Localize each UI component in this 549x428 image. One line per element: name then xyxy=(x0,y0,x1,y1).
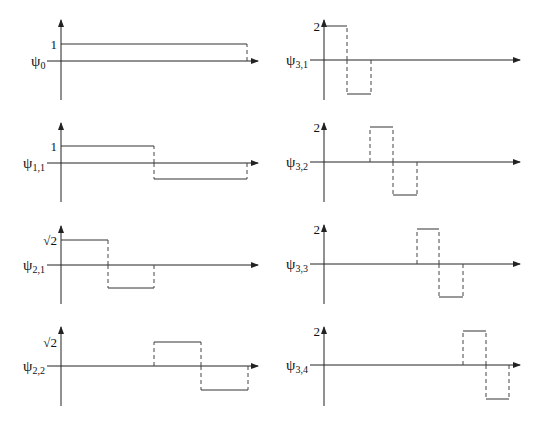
haar-wavelet-figure: ψ01ψ3,12ψ1,11ψ3,22ψ2,1√2ψ3,32ψ2,2√2ψ3,42 xyxy=(0,0,549,428)
amplitude-tick-label: √2 xyxy=(43,335,57,350)
wavelet-panel-psi11: ψ1,11 xyxy=(23,123,258,202)
amplitude-tick-label: 1 xyxy=(51,139,58,154)
function-label: ψ3,4 xyxy=(286,357,308,375)
function-label: ψ2,1 xyxy=(23,257,45,275)
function-label: ψ3,1 xyxy=(286,52,308,70)
wavelet-panel-psi32: ψ3,22 xyxy=(286,120,520,202)
wavelet-plots-canvas: ψ01ψ3,12ψ1,11ψ3,22ψ2,1√2ψ3,32ψ2,2√2ψ3,42 xyxy=(0,0,549,428)
amplitude-tick-label: 2 xyxy=(314,120,321,135)
amplitude-tick-label: 2 xyxy=(314,19,321,34)
wavelet-panel-psi31: ψ3,12 xyxy=(286,19,520,100)
function-label: ψ0 xyxy=(31,53,45,71)
wavelet-panel-psi34: ψ3,42 xyxy=(286,324,520,406)
amplitude-tick-label: 2 xyxy=(314,324,321,339)
function-label: ψ3,2 xyxy=(286,154,308,172)
function-label: ψ3,3 xyxy=(286,256,308,274)
amplitude-tick-label: 1 xyxy=(51,37,58,52)
wavelet-panel-psi21: ψ2,1√2 xyxy=(23,226,258,304)
amplitude-tick-label: 2 xyxy=(314,222,321,237)
function-label: ψ2,2 xyxy=(23,358,45,376)
function-label: ψ1,1 xyxy=(23,155,45,173)
wavelet-panel-psi33: ψ3,32 xyxy=(286,222,520,304)
wavelet-panel-psi22: ψ2,2√2 xyxy=(23,327,258,406)
amplitude-tick-label: √2 xyxy=(43,233,57,248)
wavelet-panel-psi0: ψ01 xyxy=(31,20,258,100)
